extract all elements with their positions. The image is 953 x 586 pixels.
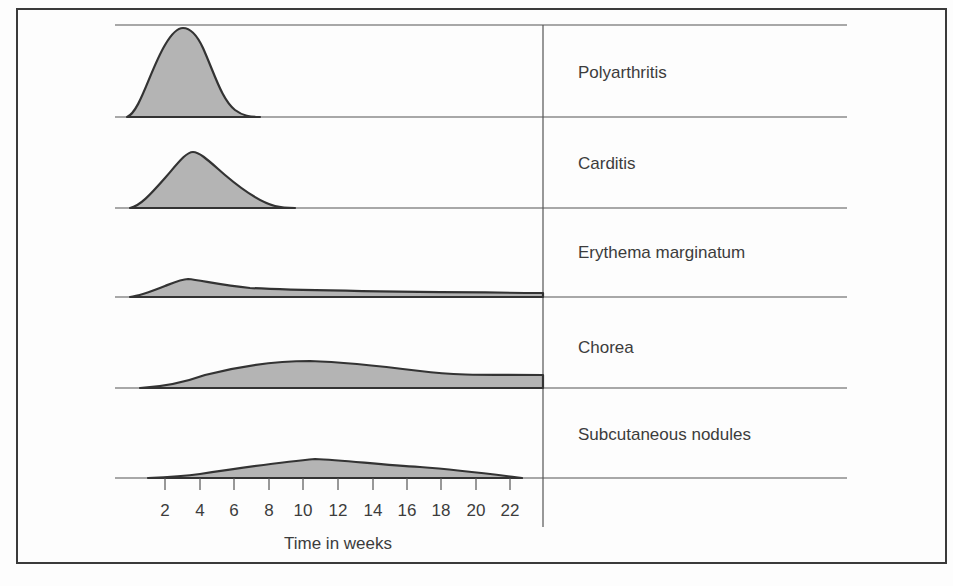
x-axis-title: Time in weeks (284, 534, 392, 553)
row-label-carditis: Carditis (578, 154, 636, 174)
tick-label: 18 (432, 501, 451, 520)
area-carditis (130, 152, 295, 208)
x-axis-tick-labels: 2 4 6 8 10 12 14 16 18 20 22 Time in wee… (160, 501, 519, 553)
series-areas (127, 28, 543, 478)
chart-canvas: 2 4 6 8 10 12 14 16 18 20 22 Time in wee… (0, 0, 953, 586)
tick-label: 12 (329, 501, 348, 520)
tick-label: 4 (195, 501, 204, 520)
x-axis-ticks (165, 478, 510, 490)
tick-label: 22 (501, 501, 520, 520)
tick-label: 20 (467, 501, 486, 520)
row-label-subcutaneous-nodules: Subcutaneous nodules (578, 425, 751, 445)
tick-label: 6 (229, 501, 238, 520)
area-chorea (140, 361, 543, 388)
tick-label: 2 (160, 501, 169, 520)
row-label-polyarthritis: Polyarthritis (578, 63, 667, 83)
area-polyarthritis (127, 28, 260, 117)
tick-label: 14 (364, 501, 383, 520)
tick-label: 8 (264, 501, 273, 520)
tick-label: 16 (398, 501, 417, 520)
area-subcutaneous-nodules (148, 459, 522, 478)
tick-label: 10 (294, 501, 313, 520)
row-label-erythema-marginatum: Erythema marginatum (578, 243, 745, 263)
area-erythema-marginatum (130, 279, 543, 297)
row-label-chorea: Chorea (578, 338, 634, 358)
